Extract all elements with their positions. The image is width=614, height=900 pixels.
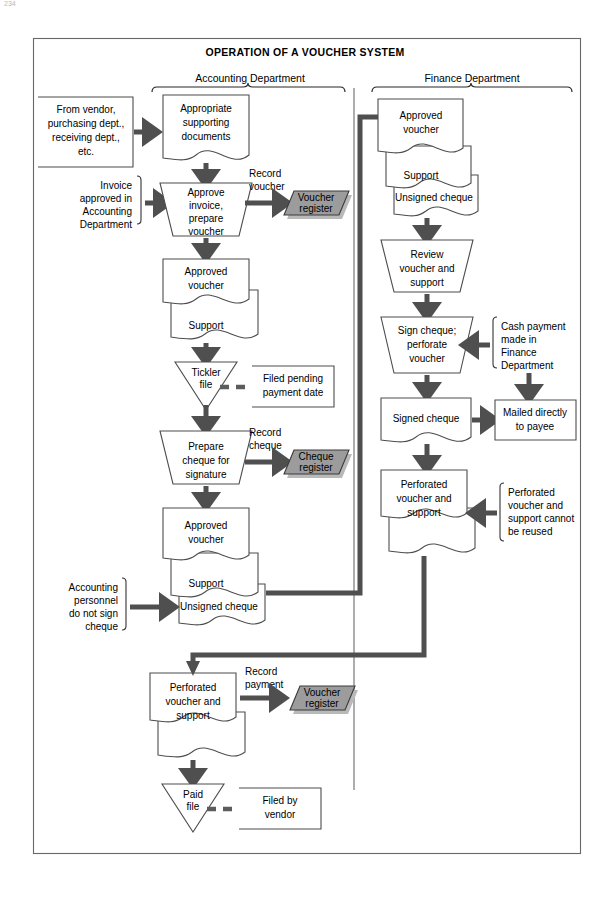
cheque-register-line-1: Cheque [298, 451, 333, 462]
sign-cheque-line-1: Sign cheque; [398, 325, 456, 336]
prepare-cheque-line-1: Prepare [188, 441, 224, 452]
approve-invoice-line-1: Approve [187, 187, 225, 198]
page-title: OPERATION OF A VOUCHER SYSTEM [205, 46, 404, 58]
finance-stack-line-2: voucher [403, 124, 439, 135]
paid-file-line-2: file [187, 801, 200, 812]
mailed-to-payee-line-1: Mailed directly [503, 407, 567, 418]
stack-2-line-4: Unsigned cheque [180, 601, 258, 612]
approve-invoice-line-4: voucher [188, 226, 224, 237]
stack-2-line-3: Support [188, 578, 223, 589]
perforated-accounting-line-1: Perforated [170, 682, 217, 693]
voucher-register-1-line-1: Voucher [298, 192, 335, 203]
finance-stack-line-3: Support [403, 170, 438, 181]
record-payment-label-line-2: payment [245, 679, 284, 690]
mailed-to-payee-line-2: to payee [516, 421, 555, 432]
cannot-reuse-line-2: voucher and [508, 500, 563, 511]
invoice-note-line-1: Invoice [100, 180, 132, 191]
accounting-personnel-line-4: cheque [85, 621, 118, 632]
approved-voucher-stack-1-line-2: voucher [188, 280, 224, 291]
source-vendor-line-3: receiving dept., [52, 132, 120, 143]
voucher-register-2-line-1: Voucher [304, 687, 341, 698]
filed-pending-line-2: payment date [263, 387, 324, 398]
accounting-personnel-line-1: Accounting [69, 582, 118, 593]
approve-invoice-line-2: invoice, [189, 200, 223, 211]
supporting-documents-line-2: supporting [183, 117, 230, 128]
cash-payment-line-1: Cash payment [501, 321, 566, 332]
perforated-finance-line-1: Perforated [401, 479, 448, 490]
supporting-documents-line-3: documents [182, 131, 231, 142]
signed-cheque-label: Signed cheque [393, 413, 460, 424]
dept-label-accounting: Accounting Department [195, 72, 305, 84]
voucher-register-2-line-2: register [305, 698, 339, 709]
accounting-personnel-line-2: personnel [74, 595, 118, 606]
perforated-finance-line-2: voucher and [396, 493, 451, 504]
invoice-note-line-3: Accounting [83, 206, 132, 217]
approved-voucher-stack-1-line-3: Support [188, 320, 223, 331]
record-payment-label-line-1: Record [245, 666, 277, 677]
voucher-system-flowchart: OPERATION OF A VOUCHER SYSTEM Accounting… [0, 0, 614, 900]
filed-by-vendor-line-1: Filed by [262, 795, 297, 806]
source-vendor-line-1: From vendor, [57, 104, 116, 115]
voucher-register-1-line-2: register [299, 203, 333, 214]
prepare-cheque-line-3: signature [185, 469, 227, 480]
flowchart-page: 234 OPERATION OF A VOUCHER SYSTEM Accoun… [0, 0, 614, 900]
stack-2-line-2: voucher [188, 534, 224, 545]
perforated-accounting-line-3: support [176, 710, 210, 721]
filed-by-vendor-line-2: vendor [265, 809, 296, 820]
invoice-note-line-2: approved in [80, 193, 132, 204]
prepare-cheque-line-2: cheque for [182, 455, 230, 466]
node-mailed-to-payee [495, 400, 576, 440]
record-cheque-label-line-2: cheque [249, 440, 282, 451]
sign-cheque-line-3: voucher [409, 353, 445, 364]
stack-2-line-1: Approved [185, 520, 228, 531]
source-vendor-line-4: etc. [78, 146, 94, 157]
review-voucher-line-1: Review [411, 249, 445, 260]
accounting-personnel-line-3: do not sign [69, 608, 118, 619]
filed-pending-line-1: Filed pending [263, 373, 323, 384]
cannot-reuse-line-4: be reused [508, 526, 552, 537]
cheque-register-line-2: register [299, 462, 333, 473]
approve-invoice-line-3: prepare [189, 213, 224, 224]
tickler-file-line-2: file [200, 379, 213, 390]
finance-stack-line-1: Approved [400, 110, 443, 121]
paid-file-line-1: Paid [183, 789, 203, 800]
perforated-accounting-line-2: voucher and [165, 696, 220, 707]
dept-label-finance: Finance Department [424, 72, 519, 84]
supporting-documents-line-1: Appropriate [180, 103, 232, 114]
record-voucher-label-line-2: voucher [249, 181, 285, 192]
finance-stack-line-4: Unsigned cheque [395, 192, 473, 203]
cannot-reuse-line-1: Perforated [508, 487, 555, 498]
invoice-note-line-4: Department [80, 219, 132, 230]
sign-cheque-line-2: perforate [407, 339, 447, 350]
cannot-reuse-line-3: support cannot [508, 513, 574, 524]
review-voucher-line-2: voucher and [399, 263, 454, 274]
approved-voucher-stack-1-line-1: Approved [185, 266, 228, 277]
cash-payment-line-2: made in [501, 334, 537, 345]
cash-payment-line-4: Department [501, 360, 553, 371]
source-vendor-line-2: purchasing dept., [48, 118, 125, 129]
perforated-finance-line-3: support [407, 507, 441, 518]
review-voucher-line-3: support [410, 277, 444, 288]
record-cheque-label-line-1: Record [249, 427, 281, 438]
record-voucher-label-line-1: Record [249, 168, 281, 179]
tickler-file-line-1: Tickler [191, 367, 221, 378]
cash-payment-line-3: Finance [501, 347, 537, 358]
